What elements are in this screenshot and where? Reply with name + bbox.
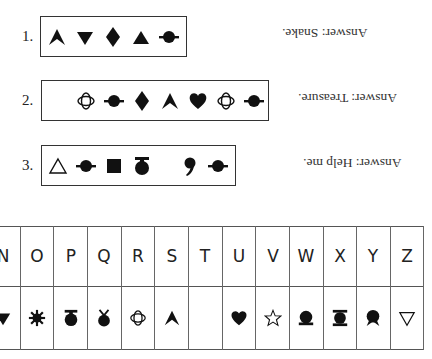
- triangle-up-filled-icon: [131, 27, 151, 47]
- key-letter-w: W: [289, 226, 323, 286]
- dome-on-base-icon: [289, 287, 323, 349]
- key-letter-r: R: [121, 226, 155, 286]
- cipher-key-table: N O P Q R S T U V W X Y Z: [0, 226, 424, 350]
- planet-filled-icon: [104, 91, 124, 111]
- square-filled-icon: [104, 156, 124, 176]
- triangle-up-outline-icon: [48, 156, 68, 176]
- key-letter-s: S: [155, 226, 189, 286]
- rosette-icon: [356, 287, 390, 349]
- key-letter-y: Y: [356, 226, 390, 286]
- heart-filled-icon: [222, 287, 256, 349]
- orbit-ring-icon: [76, 91, 96, 111]
- answer-3: Answer: Help me.: [303, 155, 402, 171]
- key-letter-p: P: [54, 226, 88, 286]
- planet-filled-icon: [244, 91, 264, 111]
- comma-icon: [180, 156, 200, 176]
- puzzle-box-3: [41, 145, 236, 186]
- key-letter-v: V: [256, 226, 290, 286]
- puzzle-number-2: 2.: [22, 92, 33, 109]
- key-letter-z: Z: [390, 226, 424, 286]
- triangle-down-filled-icon: [75, 27, 95, 47]
- chevron-up-icon: [47, 27, 67, 47]
- key-letter-t: T: [188, 226, 222, 286]
- key-letter-u: U: [222, 226, 256, 286]
- key-letter-x: X: [323, 226, 357, 286]
- puzzle-box-1: [40, 16, 187, 57]
- crescent-icon: [188, 287, 222, 349]
- bulb-with-horns-icon: [87, 287, 121, 349]
- triangle-down-outline-icon: [390, 287, 424, 349]
- orbit-ring-icon: [216, 91, 236, 111]
- orbit-ring-icon: [121, 287, 155, 349]
- pot-with-lid-icon: [54, 287, 88, 349]
- diamond-filled-icon: [103, 27, 123, 47]
- table-border-bottom: [0, 349, 424, 350]
- pot-with-lid-icon: [132, 156, 152, 176]
- chevron-up-icon: [160, 91, 180, 111]
- star-outline-icon: [256, 287, 290, 349]
- key-letter-o: O: [20, 226, 54, 286]
- planet-filled-icon: [208, 156, 228, 176]
- planet-filled-icon: [159, 27, 179, 47]
- chevron-up-icon: [155, 287, 189, 349]
- key-letter-n: N: [0, 226, 20, 286]
- answer-2: Answer: Treasure.: [298, 90, 397, 106]
- puzzle-number-1: 1.: [22, 28, 33, 45]
- puzzle-box-2: [41, 80, 269, 121]
- triangle-down-filled-icon: [0, 287, 20, 349]
- spool-icon: [323, 287, 357, 349]
- planet-filled-icon: [76, 156, 96, 176]
- puzzle-number-3: 3.: [22, 157, 33, 174]
- answer-1: Answer: Snake.: [282, 25, 367, 41]
- crescent-icon: [48, 91, 68, 111]
- sunburst-icon: [20, 287, 54, 349]
- heart-filled-icon: [188, 91, 208, 111]
- diamond-filled-icon: [132, 91, 152, 111]
- key-letter-q: Q: [87, 226, 121, 286]
